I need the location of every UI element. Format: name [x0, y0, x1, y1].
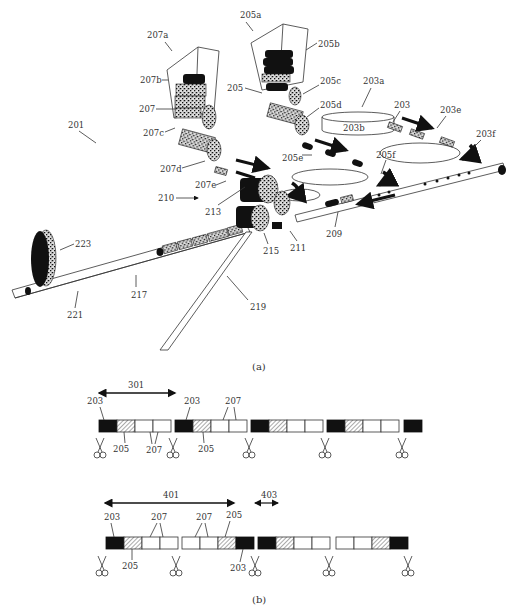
label-205b: 205b	[318, 39, 340, 49]
label-223: 223	[75, 239, 91, 249]
label-row1-207a: 207	[146, 445, 162, 455]
label-207b: 207b	[140, 75, 162, 85]
scissors-icon	[94, 438, 106, 458]
patent-figure: 207a 207b 207 207c 207d 207e 201 210 213…	[0, 0, 523, 611]
scissors-icon	[243, 438, 255, 458]
label-203f: 203f	[476, 129, 496, 139]
rollers-213-215	[236, 175, 290, 231]
label-403: 403	[261, 490, 277, 500]
label-203e: 203e	[440, 105, 461, 115]
label-207d: 207d	[160, 164, 182, 174]
label-205a: 205a	[240, 10, 261, 20]
figure-b-row1: 301 203 205 207 203 205 207	[87, 380, 422, 458]
label-row1-203a: 203	[87, 396, 103, 406]
label-row2-203b: 203	[230, 563, 246, 573]
label-row1-205b: 205	[198, 444, 214, 454]
label-row1-207b: 207	[225, 396, 241, 406]
scissors-icon	[249, 556, 261, 576]
figure-canvas: 207a 207b 207 207c 207d 207e 201 210 213…	[0, 0, 523, 611]
label-207c: 207c	[143, 128, 164, 138]
scissors-icon	[96, 556, 108, 576]
label-201: 201	[68, 120, 84, 130]
label-205d: 205d	[320, 100, 342, 110]
label-205f: 205f	[376, 150, 396, 160]
label-207a: 207a	[147, 30, 168, 40]
label-row2-207b: 207	[196, 512, 212, 522]
label-205: 205	[227, 83, 243, 93]
scissors-icon	[396, 438, 408, 458]
label-213: 213	[205, 207, 221, 217]
flow-arrows-207	[236, 160, 268, 178]
label-209: 209	[326, 229, 342, 239]
figure-b-row2: 401 403 203 205 207 207 205 20	[96, 490, 414, 605]
label-401: 401	[163, 490, 179, 500]
hopper-207	[167, 47, 228, 175]
label-row2-205a: 205	[122, 561, 138, 571]
label-301: 301	[128, 380, 144, 390]
label-203: 203	[394, 100, 410, 110]
label-219: 219	[250, 302, 266, 312]
label-207e: 207e	[195, 180, 216, 190]
label-row2-207a: 207	[151, 512, 167, 522]
label-205c: 205c	[320, 76, 341, 86]
label-217: 217	[131, 290, 147, 300]
caption-a: (a)	[252, 361, 266, 372]
figure-a: 207a 207b 207 207c 207d 207e 201 210 213…	[12, 10, 506, 372]
cutter-disk-223	[31, 230, 56, 287]
label-203a: 203a	[363, 76, 384, 86]
label-205e: 205e	[282, 153, 303, 163]
scissors-icon	[167, 438, 179, 458]
label-row1-205a: 205	[113, 444, 129, 454]
label-203b: 203b	[343, 123, 365, 133]
label-row2-205b: 205	[226, 510, 242, 520]
scissors-icon	[319, 438, 331, 458]
scissors-icon	[402, 556, 414, 576]
label-221: 221	[67, 310, 83, 320]
hopper-205	[251, 24, 309, 135]
label-215: 215	[263, 246, 279, 256]
upper-rail-209	[295, 163, 506, 222]
scissors-icon	[170, 556, 182, 576]
segments-205e	[301, 140, 363, 168]
label-211: 211	[290, 243, 306, 253]
label-row1-203b: 203	[184, 396, 200, 406]
label-row2-203a: 203	[104, 512, 120, 522]
scissors-icon	[323, 556, 335, 576]
label-210: 210	[158, 193, 174, 203]
label-207: 207	[139, 104, 155, 114]
caption-b: (b)	[252, 594, 266, 605]
